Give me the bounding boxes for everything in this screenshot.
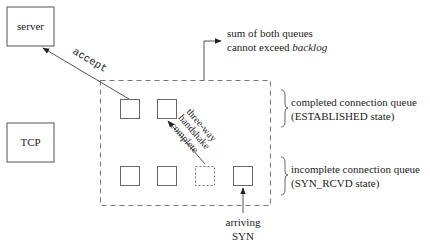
incomplete-slot xyxy=(121,167,140,186)
incomplete-slot-empty xyxy=(196,167,215,186)
incomplete-slot xyxy=(158,167,177,186)
incomplete-queue-title: incomplete connection queue xyxy=(291,163,420,175)
completed-queue-state: (ESTABLISHED state) xyxy=(291,110,395,123)
tcp-label: TCP xyxy=(20,136,40,148)
incomplete-queue-state: (SYN_RCVD state) xyxy=(291,177,380,190)
server-node: server xyxy=(7,7,54,46)
arriving-line2: SYN xyxy=(232,230,254,242)
accept-label: accept xyxy=(70,45,109,75)
backlog-emphasis: backlog xyxy=(292,41,327,53)
backlog-arrow xyxy=(204,41,221,80)
completed-queue xyxy=(121,100,177,119)
completed-slot xyxy=(158,100,177,119)
completed-brace xyxy=(281,90,288,127)
listen-queues-diagram: server TCP sum of both queues cannot exc… xyxy=(0,0,430,244)
incomplete-slot xyxy=(234,167,253,186)
backlog-note: sum of both queues cannot exceed backlog xyxy=(227,27,328,53)
backlog-line2: cannot exceed backlog xyxy=(227,41,328,53)
incomplete-queue xyxy=(121,167,253,186)
tcp-node: TCP xyxy=(7,123,54,162)
arriving-line1: arriving xyxy=(226,216,261,228)
server-label: server xyxy=(17,20,44,32)
completed-queue-title: completed connection queue xyxy=(291,96,417,108)
incomplete-brace xyxy=(281,157,288,195)
backlog-line1: sum of both queues xyxy=(227,27,313,39)
completed-slot xyxy=(121,100,140,119)
backlog-prefix: cannot exceed xyxy=(227,41,292,53)
